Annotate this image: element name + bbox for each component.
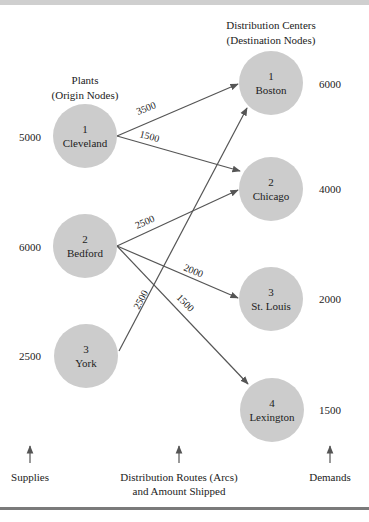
- node-boston-label: 1 Boston: [239, 69, 303, 97]
- node-name: Chicago: [239, 189, 303, 203]
- node-id: 1: [239, 69, 303, 83]
- origins-subtitle: (Origin Nodes): [35, 88, 135, 102]
- node-id: 3: [239, 285, 303, 299]
- node-id: 2: [239, 175, 303, 189]
- routes-label-line1: Distribution Routes (Arcs): [114, 470, 244, 484]
- arc-bedford-stlouis: [117, 246, 238, 298]
- node-chicago-label: 2 Chicago: [239, 175, 303, 203]
- demands-label: Demands: [300, 470, 360, 484]
- supply-cleveland: 5000: [12, 130, 48, 144]
- demand-lexington: 1500: [312, 403, 348, 417]
- node-york-label: 3 York: [54, 342, 118, 370]
- arc-label-1500-cleveland: 1500: [138, 128, 160, 144]
- node-name: Lexington: [240, 410, 304, 424]
- demand-stlouis: 2000: [312, 292, 348, 306]
- node-lexington-label: 4 Lexington: [240, 396, 304, 424]
- arc-bedford-lexington: [117, 246, 248, 384]
- node-cleveland-label: 1 Cleveland: [53, 122, 117, 150]
- arc-label-2500-york: 2500: [131, 288, 150, 311]
- node-name: St. Louis: [239, 299, 303, 313]
- routes-label-line2: and Amount Shipped: [114, 484, 244, 498]
- node-name: Boston: [239, 83, 303, 97]
- node-id: 2: [53, 232, 117, 246]
- node-bedford-label: 2 Bedford: [53, 232, 117, 260]
- node-name: York: [54, 356, 118, 370]
- supplies-label: Supplies: [0, 470, 60, 484]
- destinations-subtitle: (Destination Nodes): [216, 33, 326, 47]
- bottom-rule: [0, 507, 369, 510]
- origins-title: Plants: [45, 73, 125, 87]
- supply-york: 2500: [12, 349, 48, 363]
- arc-label-2000: 2000: [182, 262, 205, 280]
- destinations-title: Distribution Centers: [216, 18, 326, 32]
- node-name: Bedford: [53, 246, 117, 260]
- arc-cleveland-chicago: [117, 136, 240, 171]
- demand-chicago: 4000: [312, 182, 348, 196]
- arc-bedford-chicago: [117, 190, 238, 246]
- node-stlouis-label: 3 St. Louis: [239, 285, 303, 313]
- node-name: Cleveland: [53, 136, 117, 150]
- node-id: 1: [53, 122, 117, 136]
- supply-bedford: 6000: [12, 240, 48, 254]
- node-id: 4: [240, 396, 304, 410]
- node-id: 3: [54, 342, 118, 356]
- demand-boston: 6000: [312, 77, 348, 91]
- arc-label-3500: 3500: [135, 99, 158, 117]
- arc-label-2500-bedford: 2500: [133, 213, 156, 231]
